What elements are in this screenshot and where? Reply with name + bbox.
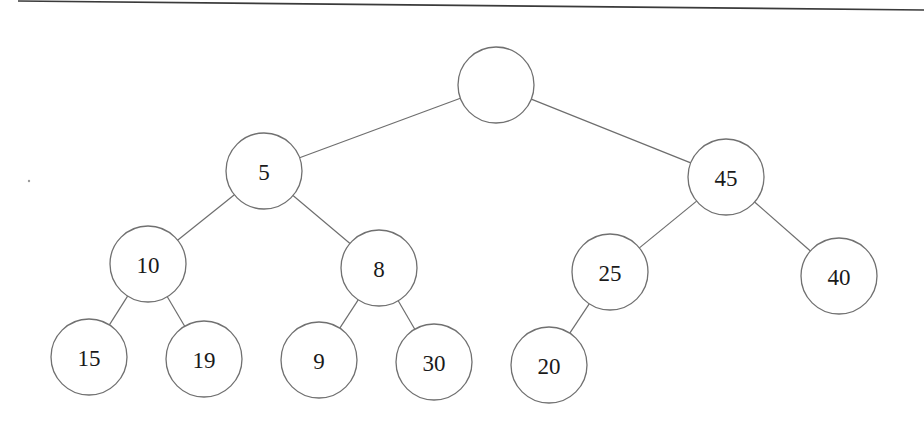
edge-n25-n20	[570, 304, 589, 333]
edge-n8-n30	[398, 301, 415, 329]
tree-node-10: 10	[110, 226, 186, 302]
tree-node-25: 25	[572, 234, 648, 310]
edge-root-n5	[300, 98, 461, 158]
edges-layer	[109, 98, 810, 333]
node-label: 8	[373, 257, 385, 282]
edge-n8-n9	[340, 300, 358, 328]
tree-node-5: 5	[226, 133, 302, 209]
edge-root-n45	[531, 99, 690, 163]
node-label: 9	[313, 349, 325, 374]
edge-n45-n25	[639, 201, 696, 248]
node-label: 30	[423, 351, 446, 376]
tree-node-40: 40	[801, 238, 877, 314]
scan-speck	[28, 180, 30, 182]
top-rule-line	[18, 1, 924, 10]
tree-diagram: 5451082540151993020	[0, 0, 924, 439]
tree-node-20: 20	[511, 327, 587, 403]
edge-n5-n10	[178, 195, 235, 240]
node-label: 45	[715, 166, 738, 191]
edge-n10-n15	[109, 296, 127, 325]
node-label: 15	[78, 346, 101, 371]
edge-n10-n19	[167, 297, 184, 327]
node-label: 25	[599, 261, 622, 286]
nodes-layer: 5451082540151993020	[51, 47, 877, 403]
tree-node-30: 30	[396, 324, 472, 400]
edge-n5-n8	[293, 196, 350, 244]
tree-node-9: 9	[281, 322, 357, 398]
node-label: 40	[828, 265, 851, 290]
node-label: 19	[193, 348, 216, 373]
node-circle	[458, 47, 534, 123]
node-label: 20	[538, 354, 561, 379]
edge-n45-n40	[755, 202, 811, 251]
tree-node-45: 45	[688, 139, 764, 215]
tree-node-19: 19	[166, 321, 242, 397]
node-label: 5	[258, 160, 270, 185]
tree-node-root	[458, 47, 534, 123]
tree-node-8: 8	[341, 230, 417, 306]
node-label: 10	[137, 253, 160, 278]
tree-node-15: 15	[51, 319, 127, 395]
